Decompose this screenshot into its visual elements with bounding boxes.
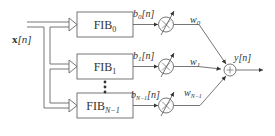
input-bus — [27, 18, 77, 112]
multiplier-0 — [159, 11, 175, 35]
signal-label-1: b1[n] — [133, 50, 154, 63]
filter-bank-diagram: x[n] FIB0 FIB1 FIBN−1 b0[n] b1[n] bN−1 — [0, 0, 275, 136]
weight-label-2: wN−1 — [184, 87, 202, 99]
signal-label-0: b0[n] — [133, 8, 154, 21]
multiplier-1 — [159, 53, 175, 77]
arrow-head-1 — [69, 60, 77, 73]
multiplier-2 — [159, 92, 175, 116]
adder — [224, 64, 236, 76]
weight-label-1: w1 — [190, 56, 200, 69]
weighted-line-0 — [174, 25, 227, 65]
filter-box-2: FIBN−1 — [77, 93, 133, 118]
filter-box-0: FIB0 — [77, 12, 133, 37]
arrow-head-0 — [69, 18, 77, 31]
arrow-head-2 — [69, 99, 77, 112]
input-label: x[n] — [12, 33, 32, 45]
signal-label-2: bN−1[n] — [131, 89, 160, 101]
output-label: y[n] — [233, 52, 251, 63]
ellipsis-dots — [104, 81, 107, 94]
filter-box-1: FIB1 — [77, 54, 133, 79]
weighted-line-2 — [174, 76, 227, 106]
